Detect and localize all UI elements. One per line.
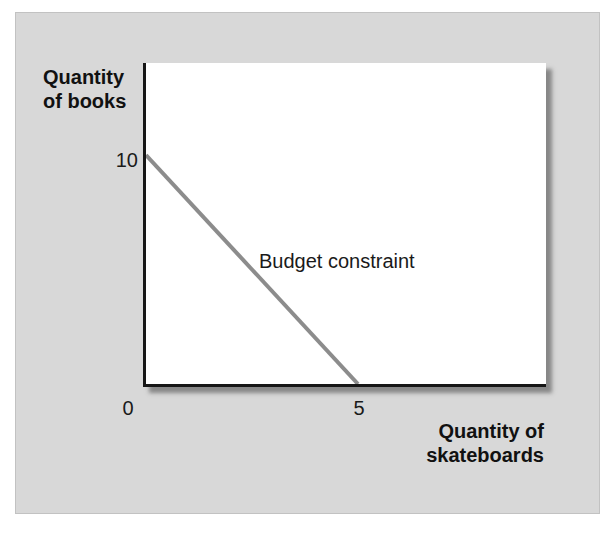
x-tick-5: 5 [344, 397, 374, 420]
y-axis-label-line1: Quantity [43, 65, 126, 89]
y-axis-label-line2: of books [43, 89, 126, 113]
chart-panel: Quantity of books 10 Budget constraint 0… [15, 12, 600, 514]
figure: Quantity of books 10 Budget constraint 0… [0, 0, 609, 536]
x-tick-0: 0 [113, 397, 143, 420]
x-axis-label-line1: Quantity of [426, 419, 544, 443]
budget-constraint-line [146, 63, 546, 384]
x-axis-label: Quantity of skateboards [426, 419, 544, 467]
x-axis-label-line2: skateboards [426, 443, 544, 467]
y-tick-10: 10 [88, 149, 138, 172]
budget-constraint-label: Budget constraint [259, 250, 415, 273]
plot-area: Budget constraint [143, 63, 546, 387]
y-axis-label: Quantity of books [43, 65, 126, 113]
